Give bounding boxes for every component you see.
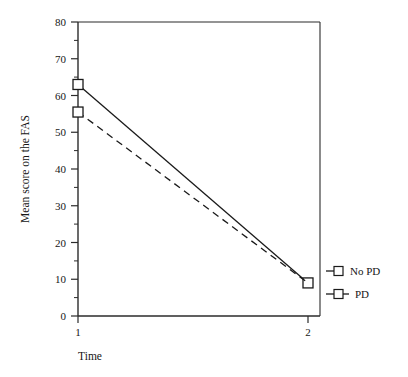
legend-swatch-marker-pd [334, 290, 343, 299]
line-chart-svg: 80 70 60 50 40 30 20 10 0 1 2 Mean score… [0, 0, 408, 377]
y-tick-label-0: 0 [61, 310, 67, 322]
legend-swatch-marker-no-pd [334, 267, 343, 276]
series-no-pd-marker-t1 [73, 79, 83, 89]
y-tick-labels: 80 70 60 50 40 30 20 10 0 [55, 16, 67, 322]
y-tick-label-50: 50 [55, 126, 67, 138]
legend-label-pd: PD [355, 288, 369, 300]
y-tick-label-60: 60 [55, 90, 67, 102]
x-axis-title: Time [78, 350, 102, 362]
y-tick-label-20: 20 [55, 237, 67, 249]
legend-entry-no-pd[interactable]: No PD [326, 265, 380, 277]
y-tick-label-80: 80 [55, 16, 67, 28]
y-tick-label-70: 70 [55, 53, 67, 65]
y-axis-title: Mean score on the FAS [19, 115, 31, 223]
legend-label-no-pd: No PD [350, 265, 380, 277]
y-tick-label-10: 10 [55, 273, 67, 285]
chart-figure: 80 70 60 50 40 30 20 10 0 1 2 Mean score… [0, 0, 408, 377]
series-no-pd-marker-t2 [303, 278, 313, 288]
y-tick-label-40: 40 [55, 163, 67, 175]
series-pd-marker-t1 [73, 107, 83, 117]
x-tick-label-2: 2 [305, 326, 311, 338]
y-tick-label-30: 30 [55, 200, 67, 212]
x-tick-label-1: 1 [75, 326, 81, 338]
